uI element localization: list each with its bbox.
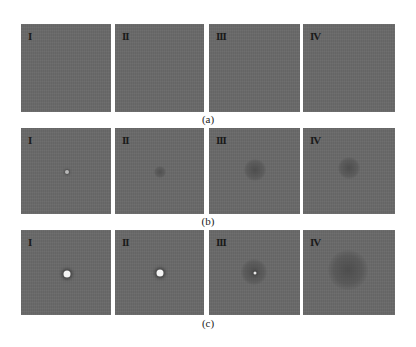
speckle-cloud [328,250,368,290]
panel-b-3: III [209,128,300,214]
panel-a-4: IV [303,24,395,112]
panel-label: IV [310,30,320,42]
panel-label: III [216,134,226,146]
panel-b-2: II [115,128,204,214]
row-c: I II III IV [21,230,395,315]
diffraction-spot [65,170,69,174]
panel-label: I [28,236,31,248]
panel-label: IV [310,236,320,248]
panel-label: IV [310,134,320,146]
row-b: I II III IV [21,128,395,214]
panel-c-1: I [21,230,111,315]
panel-c-2: II [115,230,204,315]
panel-a-1: I [21,24,111,112]
panel-b-4: IV [303,128,395,214]
panel-label: I [28,30,31,42]
panel-label: III [216,236,226,248]
panel-label: II [122,30,129,42]
figure: I II III IV (a) I II III IV (b) [0,0,416,347]
panel-b-1: I [21,128,111,214]
panel-label: I [28,134,31,146]
caption-a: (a) [0,113,416,125]
panel-c-3: III [209,230,300,315]
row-a: I II III IV [21,24,395,112]
bright-spot [64,271,71,278]
caption-b: (b) [0,215,416,227]
speckle-cloud [338,157,360,179]
panel-label: III [216,30,226,42]
panel-label: II [122,236,129,248]
speckle-cloud [154,166,166,178]
bright-spot [157,270,164,277]
panel-a-2: II [115,24,204,112]
speckle-cloud [244,159,266,181]
panel-c-4: IV [303,230,395,315]
caption-c: (c) [0,317,416,329]
panel-label: II [122,134,129,146]
panel-a-3: III [209,24,300,112]
bright-core [254,272,257,275]
